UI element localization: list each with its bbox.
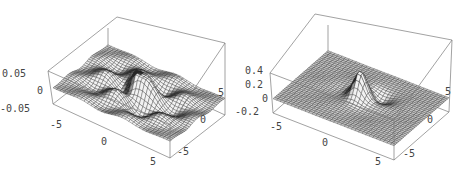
surface-plot-left-canvas: 0.050-0.05-50550-5 (0, 0, 235, 178)
y-axis-tick-label: 5 (445, 86, 451, 97)
surface-plot-left: 0.050-0.05-50550-5 (0, 0, 235, 178)
surface-mesh (53, 45, 225, 141)
x-axis-tick-label: 5 (375, 156, 381, 167)
z-axis-tick-label: 0 (262, 93, 268, 104)
y-axis-tick-label: 5 (218, 87, 224, 98)
surface-plot-right-canvas: 0.40.20-0.2-50550-5 (235, 0, 470, 178)
z-axis-tick-label: 0.2 (245, 79, 263, 90)
z-axis-tick-label: 0.05 (2, 68, 26, 79)
surface-mesh (273, 51, 449, 146)
y-axis-tick-label: 0 (427, 114, 433, 125)
y-axis-tick-label: 0 (200, 114, 206, 125)
surface-plot-right: 0.40.20-0.2-50550-5 (235, 0, 470, 178)
x-axis-tick-label: -5 (50, 119, 62, 130)
x-axis-tick-label: 0 (322, 137, 328, 148)
x-axis-tick-label: 0 (101, 136, 107, 147)
z-axis-tick-label: 0.4 (245, 65, 263, 76)
y-axis-tick-label: -5 (177, 146, 189, 157)
z-axis-tick-label: -0.05 (0, 103, 30, 114)
z-axis-tick-label: 0 (37, 85, 43, 96)
y-axis-tick-label: -5 (403, 148, 415, 159)
z-axis-tick-label: -0.2 (235, 106, 259, 117)
x-axis-tick-label: 5 (150, 156, 156, 167)
x-axis-tick-label: -5 (270, 121, 282, 132)
